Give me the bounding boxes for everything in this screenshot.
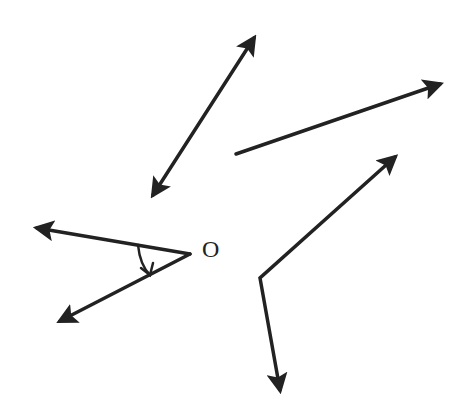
- double-arrow-line: [153, 38, 254, 195]
- angle-ray-upper: [37, 228, 190, 254]
- vertex-label-o: O: [202, 236, 219, 263]
- bent-angle: [260, 157, 395, 390]
- ray-right: [236, 84, 440, 154]
- geometry-figure: [0, 0, 462, 416]
- angle-ray-lower: [60, 254, 190, 321]
